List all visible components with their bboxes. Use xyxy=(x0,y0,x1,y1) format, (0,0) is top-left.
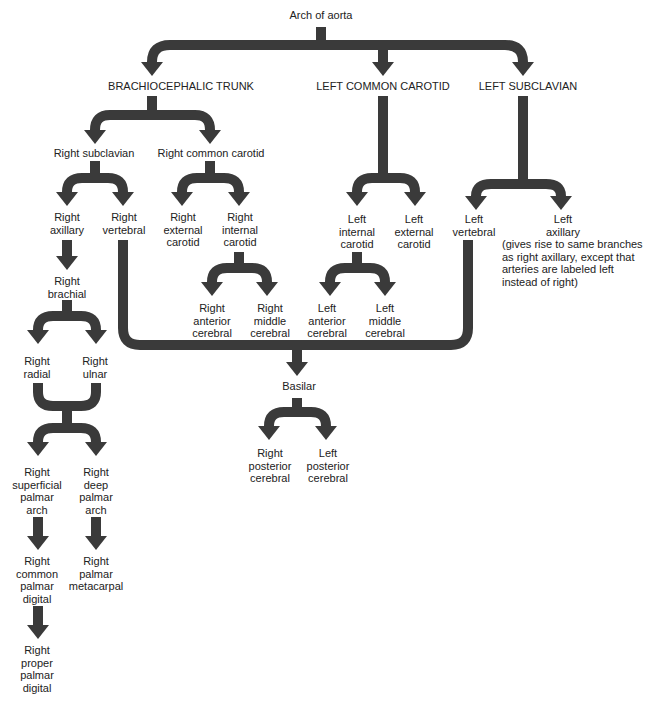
node-right-axillary: Right axillary xyxy=(50,211,84,236)
node-right-deep-palmar-arch: Right deep palmar arch xyxy=(79,466,113,516)
node-right-common-carotid: Right common carotid xyxy=(158,147,265,160)
artery-branching-diagram: Arch of aorta BRACHIOCEPHALIC TRUNK LEFT… xyxy=(0,0,645,713)
node-left-internal-carotid: Left internal carotid xyxy=(339,213,375,251)
node-right-brachial: Right brachial xyxy=(48,275,87,300)
node-left-vertebral: Left vertebral xyxy=(453,213,496,238)
note-left-axillary: (gives rise to same branches as right ax… xyxy=(502,238,643,288)
node-right-radial: Right radial xyxy=(24,355,51,380)
node-right-common-palmar-digital: Right common palmar digital xyxy=(16,555,58,605)
node-right-anterior-cerebral: Right anterior cerebral xyxy=(192,302,232,340)
node-right-internal-carotid: Right internal carotid xyxy=(222,211,258,249)
node-left-posterior-cerebral: Left posterior cerebral xyxy=(307,447,350,485)
node-left-middle-cerebral: Left middle cerebral xyxy=(365,302,405,340)
node-right-middle-cerebral: Right middle cerebral xyxy=(250,302,290,340)
node-right-ulnar: Right ulnar xyxy=(82,355,108,380)
node-left-common-carotid: LEFT COMMON CAROTID xyxy=(316,80,450,93)
node-right-subclavian: Right subclavian xyxy=(54,147,135,160)
node-right-palmar-metacarpal: Right palmar metacarpal xyxy=(69,555,123,593)
node-basilar: Basilar xyxy=(282,380,316,393)
node-right-vertebral: Right vertebral xyxy=(103,211,146,236)
node-left-anterior-cerebral: Left anterior cerebral xyxy=(307,302,347,340)
arrow-arch-branches xyxy=(152,27,523,64)
node-right-posterior-cerebral: Right posterior cerebral xyxy=(249,447,292,485)
node-right-proper-palmar-digital: Right proper palmar digital xyxy=(20,644,54,694)
node-right-external-carotid: Right external carotid xyxy=(163,211,202,249)
node-left-external-carotid: Left external carotid xyxy=(394,213,433,251)
node-brachiocephalic-trunk: BRACHIOCEPHALIC TRUNK xyxy=(108,80,254,93)
node-left-subclavian: LEFT SUBCLAVIAN xyxy=(479,80,578,93)
node-right-superficial-palmar-arch: Right superficial palmar arch xyxy=(12,466,62,516)
node-arch-of-aorta: Arch of aorta xyxy=(290,9,353,22)
node-left-axillary: Left axillary xyxy=(546,213,580,238)
